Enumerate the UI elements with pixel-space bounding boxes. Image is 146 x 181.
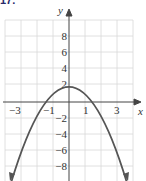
y-tick-labels: 8 6 4 2 −2 −4 −6 −8 xyxy=(55,30,67,172)
x-tick: −3 xyxy=(9,104,21,116)
y-axis-label: y xyxy=(57,4,63,16)
parabola-graph: x y −3 −1 1 3 8 6 4 2 −2 −4 −6 −8 xyxy=(0,0,146,181)
y-tick: 8 xyxy=(62,30,68,42)
x-tick: 3 xyxy=(114,104,120,116)
x-tick: −1 xyxy=(43,104,55,116)
x-axis-label: x xyxy=(137,105,143,117)
y-tick: −4 xyxy=(55,128,67,140)
y-tick: −6 xyxy=(55,144,67,156)
y-tick: 6 xyxy=(62,46,68,58)
x-tick: 1 xyxy=(83,104,89,116)
axes xyxy=(3,9,141,181)
y-tick: −2 xyxy=(55,112,67,124)
y-tick: −8 xyxy=(55,160,67,172)
y-tick: 4 xyxy=(62,62,68,74)
